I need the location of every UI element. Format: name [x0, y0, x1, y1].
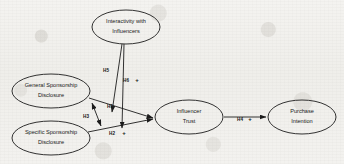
edge-label-h4: H4 — [237, 117, 243, 122]
edge-sign-h6: + — [135, 77, 139, 83]
edge-h1-line — [89, 98, 153, 118]
node-influencer-trust-ellipse — [155, 100, 223, 134]
node-purchase-intention-ellipse — [268, 100, 336, 134]
edge-h5-line — [112, 44, 122, 112]
node-interactivity-with-influencers: Interactivity with Influencers — [92, 10, 160, 44]
node-influencer-trust: Influencer Trust — [155, 100, 223, 134]
node-general-disclosure-label-line2: Disclosure — [38, 92, 64, 98]
edge-label-h3: H3 — [83, 114, 89, 119]
node-interactivity-ellipse — [92, 10, 160, 44]
node-specific-disclosure-label-line2: Disclosure — [38, 139, 64, 145]
node-influencer-trust-label-line1: Influencer — [177, 108, 202, 114]
node-specific-disclosure-label-line1: Specific Sponsorship — [25, 129, 77, 135]
node-purchase-intention-label-line2: Intention — [291, 118, 312, 124]
node-interactivity-label-line1: Interactivity with — [106, 18, 146, 24]
edge-sign-h2: + — [122, 130, 126, 136]
node-purchase-intention-label-line1: Purchase — [290, 108, 314, 114]
node-purchase-intention: Purchase Intention — [268, 100, 336, 134]
edge-label-h2: H2 — [109, 131, 115, 136]
edge-sign-h4: + — [248, 116, 252, 122]
edge-h6-line — [122, 44, 124, 128]
node-general-disclosure-label-line1: General Sponsorship — [25, 82, 78, 88]
node-influencer-trust-label-line2: Trust — [183, 118, 196, 124]
node-specific-disclosure-ellipse — [12, 121, 90, 155]
diagram-canvas: Interactivity with Influencers General S… — [0, 0, 344, 164]
node-general-disclosure-ellipse — [12, 74, 90, 108]
edge-label-h1: H1 — [107, 104, 113, 109]
node-general-sponsorship-disclosure: General Sponsorship Disclosure — [12, 74, 90, 108]
edge-label-h6: H6 — [123, 78, 129, 83]
edge-h2-line — [88, 119, 153, 132]
node-interactivity-label-line2: Influencers — [112, 28, 140, 34]
node-specific-sponsorship-disclosure: Specific Sponsorship Disclosure — [12, 121, 90, 155]
edge-label-h5: H5 — [103, 68, 109, 73]
edge-h3-line — [92, 103, 101, 126]
conceptual-model-diagram: Interactivity with Influencers General S… — [0, 0, 344, 164]
